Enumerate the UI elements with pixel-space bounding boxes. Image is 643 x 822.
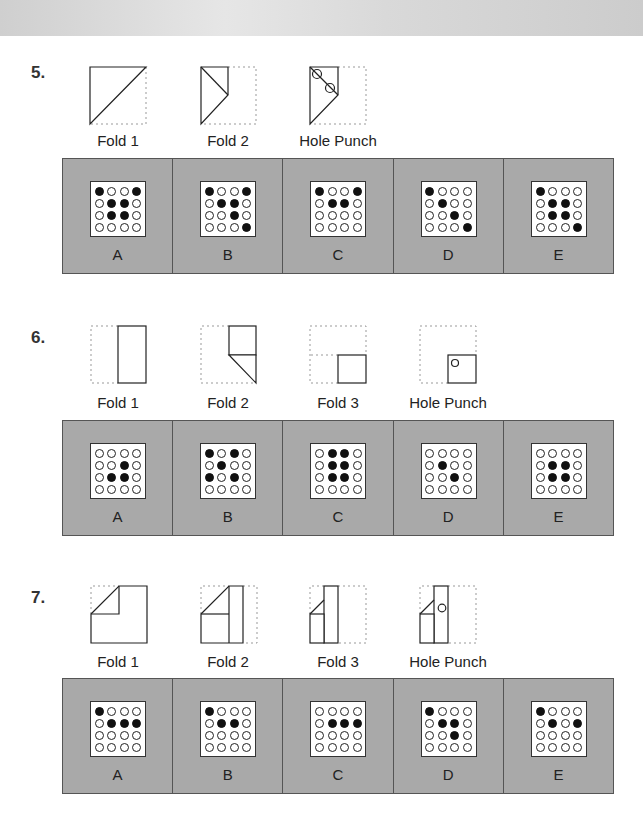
option-letter: C	[283, 246, 392, 263]
hole-empty-icon	[132, 473, 141, 482]
hole-filled-icon	[450, 719, 459, 728]
hole-empty-icon	[340, 187, 349, 196]
hole-empty-icon	[548, 731, 557, 740]
hole-empty-icon	[353, 211, 362, 220]
hole-filled-icon	[120, 719, 129, 728]
hole-empty-icon	[438, 473, 447, 482]
hole-filled-icon	[230, 449, 239, 458]
hole-empty-icon	[463, 719, 472, 728]
hole-empty-icon	[205, 485, 214, 494]
hole-empty-icon	[548, 187, 557, 196]
hole-empty-icon	[450, 707, 459, 716]
answer-option-e[interactable]: E	[504, 159, 613, 273]
option-letter: B	[173, 246, 282, 263]
hole-empty-icon	[242, 731, 251, 740]
option-letter: E	[504, 508, 613, 525]
hole-empty-icon	[561, 485, 570, 494]
hole-empty-icon	[536, 719, 545, 728]
hole-empty-icon	[315, 199, 324, 208]
hole-empty-icon	[217, 223, 226, 232]
hole-empty-icon	[573, 449, 582, 458]
hole-filled-icon	[315, 187, 324, 196]
answer-option-a[interactable]: A	[63, 421, 173, 535]
hole-empty-icon	[328, 187, 337, 196]
hole-empty-icon	[95, 743, 104, 752]
hole-empty-icon	[438, 731, 447, 740]
hole-empty-icon	[132, 211, 141, 220]
hole-filled-icon	[95, 187, 104, 196]
step-label: Fold 1	[63, 653, 173, 670]
step-label: Hole Punch	[283, 132, 393, 149]
hole-empty-icon	[425, 461, 434, 470]
hole-empty-icon	[425, 199, 434, 208]
hole-empty-icon	[450, 461, 459, 470]
hole-empty-icon	[573, 461, 582, 470]
answer-options-q5: ABCDE	[62, 158, 614, 274]
hole-empty-icon	[242, 473, 251, 482]
hole-empty-icon	[340, 707, 349, 716]
unfolded-paper-grid	[531, 701, 587, 757]
option-letter: D	[394, 766, 503, 783]
answer-options-q6: ABCDE	[62, 420, 614, 536]
hole-empty-icon	[107, 707, 116, 716]
hole-empty-icon	[205, 199, 214, 208]
hole-empty-icon	[230, 707, 239, 716]
hole-empty-icon	[561, 223, 570, 232]
hole-filled-icon	[107, 199, 116, 208]
hole-empty-icon	[205, 743, 214, 752]
hole-empty-icon	[205, 223, 214, 232]
hole-empty-icon	[230, 187, 239, 196]
hole-empty-icon	[425, 743, 434, 752]
hole-filled-icon	[328, 449, 337, 458]
hole-empty-icon	[463, 485, 472, 494]
hole-filled-icon	[450, 473, 459, 482]
hole-filled-icon	[107, 473, 116, 482]
answer-option-e[interactable]: E	[504, 679, 613, 793]
answer-option-c[interactable]: C	[283, 159, 393, 273]
hole-empty-icon	[120, 731, 129, 740]
hole-filled-icon	[340, 461, 349, 470]
answer-option-a[interactable]: A	[63, 679, 173, 793]
hole-empty-icon	[561, 731, 570, 740]
answer-option-e[interactable]: E	[504, 421, 613, 535]
hole-filled-icon	[120, 473, 129, 482]
hole-empty-icon	[242, 449, 251, 458]
answer-option-d[interactable]: D	[394, 679, 504, 793]
hole-empty-icon	[536, 211, 545, 220]
hole-filled-icon	[548, 719, 557, 728]
hole-filled-icon	[132, 187, 141, 196]
hole-empty-icon	[561, 719, 570, 728]
step-label: Hole Punch	[393, 653, 503, 670]
hole-empty-icon	[315, 473, 324, 482]
answer-option-b[interactable]: B	[173, 679, 283, 793]
option-letter: C	[283, 508, 392, 525]
option-letter: C	[283, 766, 392, 783]
hole-empty-icon	[573, 473, 582, 482]
answer-option-b[interactable]: B	[173, 159, 283, 273]
hole-filled-icon	[132, 719, 141, 728]
hole-filled-icon	[217, 461, 226, 470]
option-letter: A	[63, 766, 172, 783]
hole-empty-icon	[573, 485, 582, 494]
hole-empty-icon	[438, 187, 447, 196]
answer-option-a[interactable]: A	[63, 159, 173, 273]
answer-option-c[interactable]: C	[283, 679, 393, 793]
answer-option-b[interactable]: B	[173, 421, 283, 535]
hole-filled-icon	[217, 199, 226, 208]
hole-filled-icon	[328, 461, 337, 470]
hole-empty-icon	[463, 473, 472, 482]
step-label: Fold 2	[173, 394, 283, 411]
answer-option-d[interactable]: D	[394, 159, 504, 273]
unfolded-paper-grid	[90, 443, 146, 499]
hole-filled-icon	[425, 707, 434, 716]
hole-empty-icon	[536, 743, 545, 752]
answer-option-c[interactable]: C	[283, 421, 393, 535]
hole-empty-icon	[120, 449, 129, 458]
step-label: Fold 2	[173, 653, 283, 670]
hole-empty-icon	[328, 707, 337, 716]
answer-option-d[interactable]: D	[394, 421, 504, 535]
hole-filled-icon	[328, 199, 337, 208]
hole-filled-icon	[205, 473, 214, 482]
hole-empty-icon	[217, 473, 226, 482]
hole-filled-icon	[561, 461, 570, 470]
